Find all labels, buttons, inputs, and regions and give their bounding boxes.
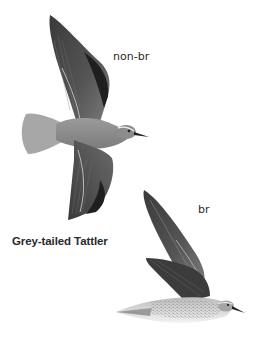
species-name: Grey-tailed Tattler — [12, 235, 108, 247]
bird-breeding — [116, 190, 245, 323]
bird-non-breeding — [22, 15, 149, 220]
figure-label-non-breeding: non-br — [113, 50, 149, 63]
field-guide-plate: non-br br Grey-tailed Tattler — [0, 0, 261, 344]
figure-label-breeding: br — [198, 203, 210, 216]
